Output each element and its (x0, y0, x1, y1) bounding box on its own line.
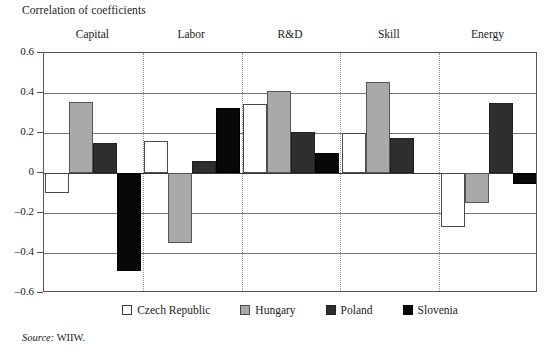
plot-area (44, 53, 536, 291)
legend-swatch-hungary (240, 305, 250, 315)
y-tick-label: –0.6 (0, 285, 34, 297)
bar-poland-r-d (291, 132, 315, 173)
group-label-capital: Capital (76, 28, 109, 40)
bar-poland-labor (192, 161, 216, 173)
source-note: Source: WIIW. (22, 332, 85, 343)
legend-swatch-poland (326, 305, 336, 315)
y-tick-label: –0.4 (0, 245, 34, 257)
y-tick-label: –0.2 (0, 205, 34, 217)
y-tick-mark (37, 292, 43, 293)
bar-czech-skill (342, 133, 366, 173)
group-label-r-d: R&D (278, 28, 303, 40)
bar-poland-skill (390, 138, 414, 173)
y-tick-label: 0.6 (0, 45, 34, 57)
group-label-labor: Labor (177, 28, 204, 40)
legend-swatch-czech (122, 305, 132, 315)
plot-frame (43, 52, 537, 292)
group-label-skill: Skill (378, 28, 400, 40)
bar-hungary-capital (69, 102, 93, 173)
bar-slovenia-capital (117, 173, 141, 271)
y-tick-label: 0.4 (0, 85, 34, 97)
bar-hungary-energy (465, 173, 489, 203)
bar-czech-labor (144, 141, 168, 173)
bar-czech-r-d (243, 104, 267, 173)
legend-label-slovenia: Slovenia (418, 304, 458, 316)
bar-slovenia-energy (513, 173, 536, 184)
bar-poland-capital (93, 143, 117, 173)
chart-title: Correlation of coefficients (22, 4, 146, 16)
legend-label-poland: Poland (341, 304, 373, 316)
source-label: Source: (22, 332, 54, 343)
bar-hungary-labor (168, 173, 192, 243)
legend-item-poland: Poland (326, 304, 373, 316)
bar-slovenia-r-d (315, 153, 339, 173)
legend-item-slovenia: Slovenia (403, 304, 458, 316)
legend-swatch-slovenia (403, 305, 413, 315)
legend-item-hungary: Hungary (240, 304, 295, 316)
bar-czech-energy (441, 173, 465, 227)
chart-figure: Correlation of coefficients CapitalLabor… (0, 0, 549, 354)
bar-slovenia-labor (216, 108, 240, 173)
bar-czech-capital (45, 173, 69, 193)
group-label-energy: Energy (471, 28, 504, 40)
y-tick-label: 0 (0, 165, 34, 177)
source-value: WIIW. (57, 332, 85, 343)
bar-hungary-r-d (267, 91, 291, 173)
chart-legend: Czech RepublicHungaryPolandSlovenia (43, 300, 537, 320)
bar-hungary-skill (366, 82, 390, 173)
y-tick-label: 0.2 (0, 125, 34, 137)
legend-label-hungary: Hungary (255, 304, 295, 316)
legend-item-czech: Czech Republic (122, 304, 210, 316)
group-separator (439, 53, 440, 291)
legend-label-czech: Czech Republic (137, 304, 210, 316)
bar-poland-energy (489, 103, 513, 173)
